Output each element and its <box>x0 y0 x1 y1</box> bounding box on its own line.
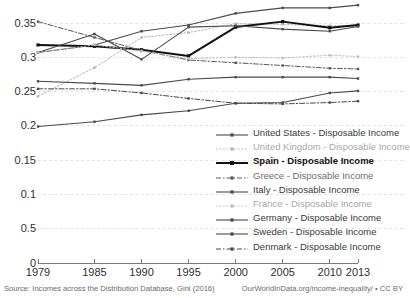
data-point-marker <box>357 4 359 6</box>
data-point-marker <box>329 30 331 32</box>
data-point-marker <box>329 101 331 103</box>
x-axis: 19791985199019952000200520102013 <box>0 266 406 282</box>
x-tick-label: 2013 <box>346 266 370 278</box>
series-germany <box>37 76 359 87</box>
data-point-marker <box>234 76 236 78</box>
data-point-marker <box>187 31 189 33</box>
chart-legend: United States - Disposable IncomeUnited … <box>215 126 406 254</box>
x-tick-label: 1990 <box>129 266 153 278</box>
legend-item-greece[interactable]: Greece - Disposable Income <box>215 169 406 183</box>
x-tick-label: 1979 <box>26 266 50 278</box>
data-point-marker <box>234 56 236 58</box>
legend-item-france[interactable]: France - Disposable Income <box>215 197 406 211</box>
data-point-marker <box>357 55 359 57</box>
legend-item-label: Spain - Disposable Income <box>253 156 374 166</box>
legend-item-united-kingdom[interactable]: United Kingdom - Disposable Income <box>215 140 406 154</box>
data-point-marker <box>93 36 95 38</box>
data-point-marker <box>187 57 189 59</box>
data-point-marker <box>329 7 331 9</box>
x-tick-label: 1995 <box>176 266 200 278</box>
x-tick-label: 2010 <box>318 266 342 278</box>
data-point-marker <box>282 28 284 30</box>
series-sweden <box>37 90 359 128</box>
data-point-marker <box>140 36 142 38</box>
legend-line-swatch <box>215 241 249 253</box>
source-note: Source: Incomes across the Distribution … <box>4 284 215 293</box>
data-point-marker <box>37 51 39 53</box>
legend-line-swatch <box>215 127 249 139</box>
data-point-marker <box>282 76 284 78</box>
data-point-marker <box>281 20 284 23</box>
legend-item-germany[interactable]: Germany - Disposable Income <box>215 211 406 225</box>
legend-item-sweden[interactable]: Sweden - Disposable Income <box>215 225 406 239</box>
data-point-marker <box>357 90 359 92</box>
legend-item-italy[interactable]: Italy - Disposable Income <box>215 183 406 197</box>
data-point-marker <box>357 100 359 102</box>
attribution-note: OurWorldInData.org/income-inequality/ • … <box>242 284 403 293</box>
legend-item-label: Germany - Disposable Income <box>253 213 381 223</box>
data-point-marker <box>140 92 142 94</box>
data-point-marker <box>37 20 39 22</box>
data-point-marker <box>282 64 284 66</box>
data-point-marker <box>93 66 95 68</box>
data-point-marker <box>36 43 39 46</box>
data-point-marker <box>282 103 284 105</box>
data-point-marker <box>93 121 95 123</box>
series-italy <box>37 25 359 61</box>
legend-item-spain[interactable]: Spain - Disposable Income <box>215 154 406 168</box>
data-point-marker <box>282 23 284 25</box>
legend-item-label: Greece - Disposable Income <box>253 171 373 181</box>
legend-item-label: Italy - Disposable Income <box>253 185 360 195</box>
data-point-marker <box>140 50 142 52</box>
data-point-marker <box>37 95 39 97</box>
data-series-group <box>36 4 359 128</box>
data-point-marker <box>234 22 236 24</box>
data-point-marker <box>357 77 359 79</box>
legend-item-label: United Kingdom - Disposable Income <box>253 142 410 152</box>
legend-line-swatch <box>215 184 249 196</box>
data-point-marker <box>37 80 39 82</box>
legend-item-denmark[interactable]: Denmark - Disposable Income <box>215 240 406 254</box>
data-point-marker <box>187 24 189 26</box>
data-point-marker <box>93 33 95 35</box>
data-point-marker <box>329 92 331 94</box>
y-tick-label: 0.35 <box>2 18 36 29</box>
x-tick-label: 1985 <box>82 266 106 278</box>
y-tick-label: 0.3 <box>2 52 36 63</box>
y-tick-label: 0.25 <box>2 86 36 97</box>
data-point-marker <box>234 25 236 27</box>
legend-item-label: United States - Disposable Income <box>253 128 399 138</box>
data-point-marker <box>93 82 95 84</box>
data-point-marker <box>357 68 359 70</box>
legend-line-swatch <box>215 155 249 167</box>
data-point-marker <box>329 76 331 78</box>
data-point-marker <box>93 88 95 90</box>
legend-line-swatch <box>215 141 249 153</box>
legend-item-united-states[interactable]: United States - Disposable Income <box>215 126 406 140</box>
data-point-marker <box>187 97 189 99</box>
data-point-marker <box>357 25 359 27</box>
data-point-marker <box>37 125 39 127</box>
series-spain <box>36 20 359 57</box>
legend-line-swatch <box>215 212 249 224</box>
data-point-marker <box>234 62 236 64</box>
series-united-kingdom <box>37 22 359 97</box>
chart-footer: Source: Incomes across the Distribution … <box>0 284 406 298</box>
x-tick-label: 2005 <box>270 266 294 278</box>
data-point-marker <box>234 12 236 14</box>
data-point-marker <box>140 84 142 86</box>
data-point-marker <box>140 30 142 32</box>
data-point-marker <box>93 44 95 46</box>
legend-item-label: France - Disposable Income <box>253 199 372 209</box>
data-point-marker <box>37 88 39 90</box>
data-point-marker <box>328 26 331 29</box>
data-point-marker <box>140 114 142 116</box>
data-point-marker <box>187 78 189 80</box>
legend-line-swatch <box>215 198 249 210</box>
x-tick-label: 2000 <box>223 266 247 278</box>
y-tick-label: 0.5 <box>2 223 36 234</box>
data-point-marker <box>187 110 189 112</box>
data-point-marker <box>187 26 189 28</box>
data-point-marker <box>140 58 142 60</box>
